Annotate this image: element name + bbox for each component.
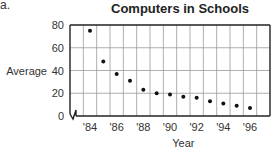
x-tick-label: '94 xyxy=(216,121,230,133)
data-point xyxy=(101,59,105,63)
data-point xyxy=(195,96,199,100)
x-tick-label: '86 xyxy=(109,121,123,133)
data-point xyxy=(235,104,239,108)
data-point xyxy=(208,99,212,103)
data-point xyxy=(155,91,159,95)
data-point xyxy=(181,95,185,99)
data-point xyxy=(115,72,119,76)
y-axis-title: Average xyxy=(6,65,47,77)
x-tick-label: '88 xyxy=(136,121,150,133)
scatter-chart: 020406080Average'84'86'88'90'92'94'96Yea… xyxy=(0,0,280,154)
data-point xyxy=(88,29,92,33)
data-point xyxy=(128,79,132,83)
x-tick-label: '92 xyxy=(189,121,203,133)
data-point xyxy=(221,101,225,105)
data-point xyxy=(141,88,145,92)
x-tick-label: '84 xyxy=(83,121,97,133)
x-axis-title: Year xyxy=(172,137,195,149)
data-point xyxy=(248,106,252,110)
x-tick-label: '96 xyxy=(243,121,257,133)
x-tick-label: '90 xyxy=(163,121,177,133)
data-point xyxy=(168,92,172,96)
axis-break-icon xyxy=(70,110,76,119)
y-tick-label: 0 xyxy=(58,110,64,122)
y-tick-label: 80 xyxy=(52,19,64,31)
y-tick-label: 20 xyxy=(52,87,64,99)
y-tick-label: 60 xyxy=(52,42,64,54)
y-tick-label: 40 xyxy=(52,65,64,77)
